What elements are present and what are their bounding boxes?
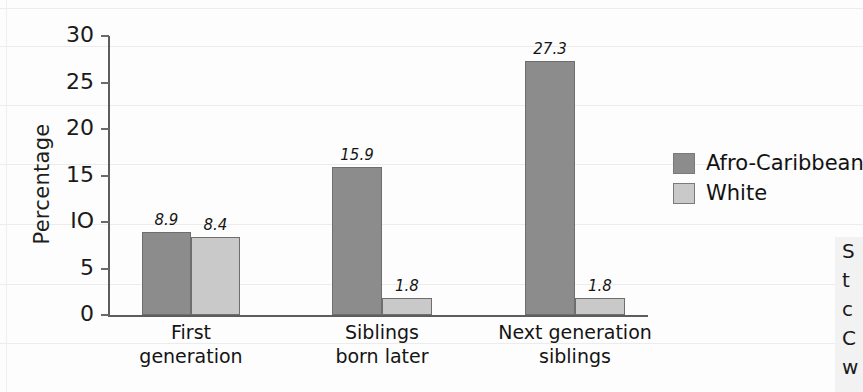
- category-label-line: Siblings: [272, 320, 492, 344]
- bar-chart: Percentage 05IO15202530 8.98.415.91.827.…: [0, 0, 863, 392]
- plot-area: 8.98.415.91.827.31.8: [110, 36, 648, 315]
- category-label-line: Next generation: [465, 320, 685, 344]
- y-axis-tick: [101, 128, 109, 130]
- bar-0-group-1: [332, 167, 382, 315]
- legend-swatch-icon: [673, 153, 695, 174]
- legend-item-0: Afro-Caribbean: [673, 148, 863, 178]
- legend-label: White: [706, 181, 767, 205]
- bar-value-label: 1.8: [376, 279, 438, 294]
- y-axis-tick: [101, 221, 109, 223]
- side-panel-text-line: t: [835, 266, 863, 295]
- y-axis-tick: [101, 268, 109, 270]
- bar-1-group-1: [382, 298, 432, 315]
- category-label-line: First: [81, 320, 301, 344]
- side-panel-text-line: S: [835, 237, 863, 266]
- y-axis-tick: [101, 175, 109, 177]
- y-axis-tick-label: 25: [48, 71, 94, 93]
- category-label-0: Firstgeneration: [81, 320, 301, 368]
- bar-0-group-2: [525, 61, 575, 315]
- category-label-1: Siblingsborn later: [272, 320, 492, 368]
- y-axis-tick-label: 20: [48, 117, 94, 139]
- legend-label: Afro-Caribbean: [706, 151, 863, 175]
- category-label-line: siblings: [465, 344, 685, 368]
- bar-value-label: 1.8: [569, 279, 631, 294]
- legend-swatch-icon: [673, 183, 695, 204]
- cutoff-side-text-panel: StcCw: [835, 237, 863, 392]
- bar-0-group-0: [142, 232, 191, 315]
- legend-item-1: White: [673, 178, 863, 208]
- y-axis-tick: [101, 82, 109, 84]
- category-label-2: Next generationsiblings: [465, 320, 685, 368]
- category-label-line: generation: [81, 344, 301, 368]
- side-panel-text-line: w: [835, 353, 863, 382]
- bar-1-group-0: [191, 237, 240, 315]
- bar-value-label: 8.4: [185, 218, 246, 233]
- x-axis-line: [108, 315, 648, 317]
- y-axis-tick-label: 30: [48, 24, 94, 46]
- bar-1-group-2: [575, 298, 625, 315]
- bar-value-label: 27.3: [519, 42, 581, 57]
- bar-value-label: 15.9: [326, 148, 388, 163]
- category-label-line: born later: [272, 344, 492, 368]
- y-axis-tick: [101, 314, 109, 316]
- chart-legend: Afro-CaribbeanWhite: [673, 148, 863, 208]
- y-axis-tick: [101, 35, 109, 37]
- y-axis-tick-label: 15: [48, 164, 94, 186]
- side-panel-text-line: C: [835, 324, 863, 353]
- y-axis-tick-label: IO: [48, 210, 94, 232]
- y-axis-tick-label: 5: [48, 257, 94, 279]
- side-panel-text-line: c: [835, 295, 863, 324]
